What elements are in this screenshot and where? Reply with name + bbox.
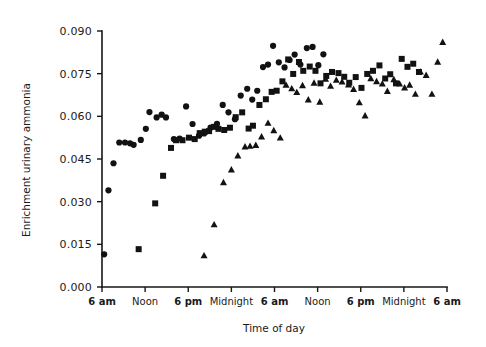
data-point-circle (163, 114, 169, 120)
data-point-square (180, 137, 186, 143)
data-point-square (160, 173, 166, 179)
x-tick-label: 6 am (261, 296, 289, 307)
data-point-square (168, 145, 174, 151)
data-point-square (152, 200, 158, 206)
data-point-square (307, 64, 313, 70)
data-point-square (312, 68, 318, 74)
data-point-circle (238, 92, 244, 98)
data-point-circle (225, 109, 231, 115)
data-point-square (353, 74, 359, 80)
y-tick-label: 0.000 (60, 281, 93, 294)
scatter-chart: 0.0000.0150.0300.0450.0600.0750.090 Enri… (0, 0, 486, 347)
data-point-square (263, 96, 269, 102)
data-point-square (329, 69, 335, 75)
data-point-circle (281, 64, 287, 70)
data-point-square (250, 123, 256, 129)
data-point-square (192, 136, 198, 142)
data-point-circle (146, 109, 152, 115)
chart-background (0, 0, 486, 347)
data-point-circle (220, 102, 226, 108)
y-tick-label: 0.075 (60, 68, 93, 81)
data-point-square (136, 246, 142, 252)
data-point-square (285, 56, 291, 62)
data-point-square (370, 68, 376, 74)
data-point-square (364, 71, 370, 77)
data-point-circle (254, 88, 260, 94)
data-point-circle (131, 142, 137, 148)
data-point-circle (101, 251, 107, 257)
data-point-circle (189, 121, 195, 127)
data-point-square (221, 127, 227, 133)
data-point-circle (249, 96, 255, 102)
data-point-square (410, 61, 416, 67)
y-tick-label: 0.030 (60, 196, 93, 209)
data-point-circle (320, 51, 326, 57)
data-point-circle (270, 43, 276, 49)
data-point-circle (315, 62, 321, 68)
y-tick-label: 0.090 (60, 25, 93, 38)
x-tick-label: 6 am (433, 296, 461, 307)
y-tick-label: 0.060 (60, 110, 93, 123)
x-tick-label: Noon (132, 296, 158, 307)
data-point-square (256, 102, 262, 108)
x-tick-label: 6 pm (347, 296, 375, 307)
data-point-circle (292, 52, 298, 58)
data-point-square (227, 125, 233, 131)
data-point-circle (105, 187, 111, 193)
data-point-square (279, 78, 285, 84)
data-point-circle (265, 61, 271, 67)
x-tick-label: 6 pm (174, 296, 202, 307)
data-point-square (186, 135, 192, 141)
y-tick-label: 0.015 (60, 238, 93, 251)
data-point-square (215, 126, 221, 132)
data-point-square (290, 71, 296, 77)
x-tick-label: Midnight (382, 296, 426, 307)
y-axis-label: Enrichment urinary ammonia (20, 83, 32, 237)
data-point-circle (110, 160, 116, 166)
data-point-square (335, 70, 341, 76)
data-point-square (239, 109, 245, 115)
data-point-circle (309, 44, 315, 50)
data-point-circle (183, 103, 189, 109)
x-axis-label: Time of day (242, 322, 305, 334)
x-tick-label: Midnight (210, 296, 254, 307)
data-point-circle (116, 139, 122, 145)
data-point-square (274, 88, 280, 94)
x-tick-label: 6 am (88, 296, 116, 307)
data-point-square (376, 62, 382, 68)
data-point-square (387, 71, 393, 77)
data-point-square (300, 68, 306, 74)
data-point-circle (244, 86, 250, 92)
data-point-circle (143, 126, 149, 132)
data-point-square (404, 64, 410, 70)
data-point-square (173, 137, 179, 143)
data-point-square (358, 85, 364, 91)
y-tick-label: 0.045 (60, 153, 93, 166)
data-point-circle (276, 59, 282, 65)
data-point-square (399, 56, 405, 62)
data-point-square (296, 59, 302, 65)
data-point-circle (304, 45, 310, 51)
x-tick-label: Noon (305, 296, 331, 307)
data-point-square (233, 114, 239, 120)
data-point-circle (138, 137, 144, 143)
